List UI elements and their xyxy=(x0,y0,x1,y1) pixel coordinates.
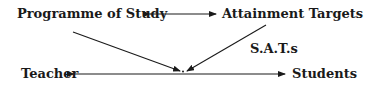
students-label: Students xyxy=(292,67,357,80)
attainment-targets-label: Attainment Targets xyxy=(222,7,363,20)
diagram-canvas: Programme of Study Attainment Targets S.… xyxy=(0,0,375,87)
teacher-label: Teacher xyxy=(21,67,78,80)
programme-to-center-arrow xyxy=(73,32,180,71)
center-point xyxy=(182,71,184,73)
programme-of-study-label: Programme of Study xyxy=(17,7,167,20)
sats-label: S.A.T.s xyxy=(250,42,298,55)
